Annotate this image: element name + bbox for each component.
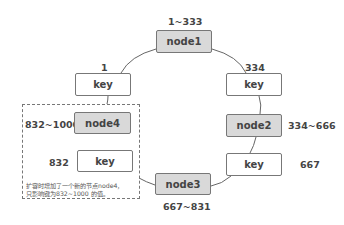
key1-value-label: 1 bbox=[101, 62, 108, 73]
node4-range-label: 832~1000 bbox=[25, 119, 79, 130]
node3-range-label: 667~831 bbox=[163, 201, 211, 212]
node3-box: node3 bbox=[155, 173, 211, 195]
key667-box: key bbox=[226, 153, 282, 176]
edge-key667-node3 bbox=[211, 176, 231, 186]
key334-box: key bbox=[226, 73, 282, 96]
edge-node3-expansion bbox=[139, 178, 155, 185]
expansion-note-line2: 只影响键为832~1000 的值。 bbox=[26, 189, 109, 198]
edge-key1-expansion bbox=[107, 96, 108, 104]
edge-node2-key667 bbox=[250, 137, 256, 153]
node1-box: node1 bbox=[156, 30, 212, 53]
key832-box: key bbox=[77, 150, 133, 172]
key832-value-label: 832 bbox=[49, 157, 69, 168]
node1-range-label: 1~333 bbox=[168, 16, 202, 27]
edge-node1-key334 bbox=[212, 49, 246, 73]
key334-value-label: 334 bbox=[245, 62, 265, 73]
node4-box: node4 bbox=[74, 112, 131, 134]
node2-range-label: 334~666 bbox=[288, 120, 336, 131]
key667-value-label: 667 bbox=[300, 159, 320, 170]
key1-box: key bbox=[75, 73, 131, 96]
edge-node1-key1 bbox=[121, 49, 156, 73]
node2-box: node2 bbox=[226, 114, 282, 137]
edge-key334-node2 bbox=[259, 96, 261, 114]
